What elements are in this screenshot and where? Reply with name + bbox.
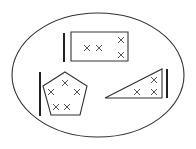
set-diagram bbox=[0, 0, 196, 149]
rectangle-group bbox=[64, 32, 128, 62]
pentagon-group bbox=[40, 72, 87, 116]
x-mark-icon bbox=[64, 104, 70, 110]
x-mark-icon bbox=[151, 89, 157, 95]
x-mark-icon bbox=[74, 89, 80, 95]
x-mark-icon bbox=[118, 37, 124, 43]
x-mark-icon bbox=[84, 45, 90, 51]
shape-groups bbox=[40, 32, 167, 116]
x-mark-icon bbox=[48, 89, 54, 95]
triangle-shape bbox=[105, 69, 162, 98]
x-mark-icon bbox=[96, 45, 102, 51]
x-mark-icon bbox=[62, 80, 68, 86]
triangle-group bbox=[105, 69, 167, 98]
x-mark-icon bbox=[118, 52, 124, 58]
x-mark-icon bbox=[151, 77, 157, 83]
x-mark-icon bbox=[53, 104, 59, 110]
x-mark-icon bbox=[134, 89, 140, 95]
